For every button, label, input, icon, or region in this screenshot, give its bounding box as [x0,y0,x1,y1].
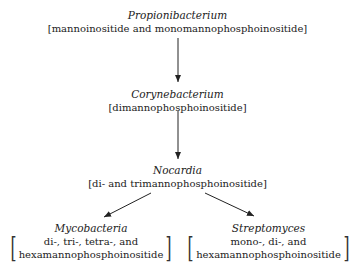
right-bracket: ] [166,235,172,261]
node-title: Nocardia [0,164,355,177]
node-title: Corynebacterium [0,88,355,101]
content-line-2: hexamannophosphoinositide [196,248,341,261]
node-content: [di- and trimannophosphoinositide] [0,177,355,190]
node-title: Propionibacterium [0,9,355,22]
bracketed-content: [ di-, tri-, tetra-, and hexamannophosph… [8,235,175,261]
content-line-2: hexamannophosphoinositide [19,248,164,261]
right-bracket: ] [343,235,349,261]
node-title: Mycobacteria [0,222,182,235]
node-content: [dimannophosphoinositide] [0,101,355,114]
node-corynebacterium: Corynebacterium [dimannophosphoinositide… [0,88,355,114]
content-line-1: mono-, di-, and [196,235,341,248]
node-title: Streptomyces [182,222,355,235]
node-mycobacteria: Mycobacteria [ di-, tri-, tetra-, and he… [0,222,182,261]
arrow-nocardia-to-streptomyces [205,193,254,216]
left-bracket: [ [188,235,194,261]
content-line-1: di-, tri-, tetra-, and [19,235,164,248]
left-bracket: [ [10,235,16,261]
node-streptomyces: Streptomyces [ mono-, di-, and hexamanno… [182,222,355,261]
arrow-nocardia-to-mycobacteria [104,193,151,217]
node-content: [mannoinositide and monomannophosphoinos… [0,22,355,35]
node-nocardia: Nocardia [di- and trimannophosphoinositi… [0,164,355,190]
node-propionibacterium: Propionibacterium [mannoinositide and mo… [0,9,355,35]
bracketed-content: [ mono-, di-, and hexamannophosphoinosit… [185,235,352,261]
